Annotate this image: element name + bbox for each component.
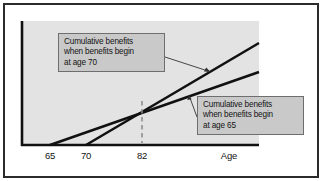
x-tick-label-82: 82 bbox=[129, 150, 155, 161]
x-tick-label-65: 65 bbox=[37, 150, 63, 161]
callout-age-65-line-3: at age 65 bbox=[203, 121, 299, 131]
callout-age-70-line-1: Cumulative benefits bbox=[64, 37, 160, 47]
x-axis-title: Age bbox=[211, 150, 247, 161]
leader-arrowhead-age-70 bbox=[204, 67, 211, 72]
callout-age-65-line-2: when benefits begin bbox=[203, 110, 299, 120]
x-tick-label-70: 70 bbox=[73, 150, 99, 161]
callout-age-65: Cumulative benefits when benefits begin … bbox=[197, 96, 304, 135]
callout-age-70-line-3: at age 70 bbox=[64, 58, 160, 68]
leader-line-age-70 bbox=[165, 57, 208, 71]
callout-age-65-line-1: Cumulative benefits bbox=[203, 100, 299, 110]
leader-line-age-65 bbox=[190, 98, 197, 117]
callout-age-70: Cumulative benefits when benefits begin … bbox=[58, 33, 165, 72]
benefits-crossover-chart: Cumulative benefits when benefits begin … bbox=[0, 0, 322, 181]
callout-age-70-line-2: when benefits begin bbox=[64, 47, 160, 57]
